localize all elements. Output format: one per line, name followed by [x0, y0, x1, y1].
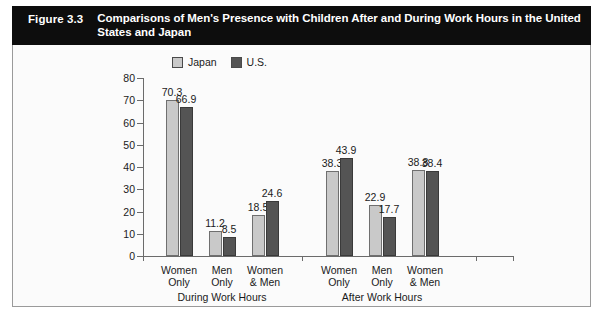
bar-value-label: 22.9 [361, 192, 389, 203]
bar-us-5 [426, 171, 439, 256]
y-axis-tick [137, 78, 143, 79]
x-axis-group-label: During Work Hours [162, 291, 282, 303]
x-axis-category-label: Women& Men [390, 264, 460, 288]
x-axis-label-line: Women [230, 264, 300, 276]
figure-header: Figure 3.3 Comparisons of Men's Presence… [12, 6, 591, 45]
bar-us-1 [223, 237, 236, 256]
x-axis-label-line: & Men [230, 276, 300, 288]
x-axis-tick [513, 256, 514, 261]
legend-swatch-us [231, 57, 242, 68]
bar-value-label: 17.7 [375, 204, 403, 215]
figure-root: Figure 3.3 Comparisons of Men's Presence… [0, 0, 603, 321]
legend-item-japan: Japan [172, 57, 217, 68]
y-axis-tick-label: 70 [105, 95, 135, 106]
y-axis-tick-label: 80 [105, 73, 135, 84]
legend-swatch-japan [172, 57, 183, 68]
y-axis-tick-label: 10 [105, 229, 135, 240]
bar-us-4 [383, 217, 396, 256]
x-axis-category-label: Women& Men [230, 264, 300, 288]
figure-title: Comparisons of Men's Presence with Child… [97, 11, 581, 39]
chart-plot-area: 0102030405060708070.366.9WomenOnly11.28.… [143, 78, 513, 256]
legend-label-japan: Japan [188, 57, 217, 68]
y-axis-tick [137, 123, 143, 124]
y-axis-tick [137, 189, 143, 190]
y-axis-tick [137, 100, 143, 101]
bar-japan-2 [252, 215, 265, 256]
bar-japan-1 [209, 231, 222, 256]
x-axis-tick [302, 256, 303, 261]
x-axis-tick [476, 256, 477, 261]
bar-us-2 [266, 201, 279, 256]
y-axis-line [143, 78, 144, 256]
y-axis-tick-label: 0 [105, 251, 135, 262]
bar-japan-0 [166, 100, 179, 256]
y-axis-tick-label: 30 [105, 184, 135, 195]
bar-us-3 [340, 158, 353, 256]
y-axis-tick-label: 60 [105, 118, 135, 129]
bar-value-label: 24.6 [258, 188, 286, 199]
bar-value-label: 43.9 [332, 145, 360, 156]
x-axis-tick [143, 256, 144, 261]
chart-legend: Japan U.S. [172, 57, 267, 68]
bar-us-0 [180, 107, 193, 256]
y-axis-tick [137, 145, 143, 146]
x-axis-line [143, 256, 513, 257]
y-axis-tick [137, 212, 143, 213]
y-axis-tick [137, 167, 143, 168]
bar-japan-3 [326, 171, 339, 256]
bar-value-label: 66.9 [172, 94, 200, 105]
bar-value-label: 38.4 [418, 158, 446, 169]
legend-label-us: U.S. [247, 57, 267, 68]
bar-japan-5 [412, 170, 425, 256]
x-axis-label-line: & Men [390, 276, 460, 288]
figure-number: Figure 3.3 [28, 11, 83, 26]
y-axis-tick [137, 234, 143, 235]
x-axis-label-line: Women [390, 264, 460, 276]
y-axis-tick-label: 50 [105, 140, 135, 151]
bar-value-label: 8.5 [215, 224, 243, 235]
legend-item-us: U.S. [231, 57, 267, 68]
y-axis-tick-label: 20 [105, 207, 135, 218]
x-axis-group-label: After Work Hours [322, 291, 442, 303]
y-axis-tick-label: 40 [105, 162, 135, 173]
